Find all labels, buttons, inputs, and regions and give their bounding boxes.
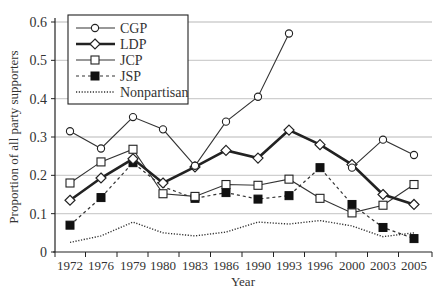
y-tick-label: 0.5 xyxy=(30,53,48,68)
square-marker xyxy=(254,181,262,189)
x-tick-label: 1996 xyxy=(307,258,334,273)
x-tick-label: 1986 xyxy=(213,258,240,273)
circle-marker xyxy=(222,118,229,125)
x-tick-label: 1983 xyxy=(182,258,208,273)
square-marker xyxy=(66,179,74,187)
filled-square-marker xyxy=(285,192,293,200)
y-tick-label: 0.1 xyxy=(30,207,48,222)
filled-square-marker xyxy=(66,221,74,229)
square-marker xyxy=(191,192,199,200)
filled-square-marker xyxy=(379,223,387,231)
square-marker xyxy=(379,201,387,209)
y-tick-label: 0 xyxy=(40,245,47,260)
filled-square-marker xyxy=(348,200,356,208)
filled-square-marker xyxy=(97,194,105,202)
x-tick-label: 1976 xyxy=(88,258,115,273)
x-axis-label: Year xyxy=(231,274,256,289)
square-marker xyxy=(285,175,293,183)
circle-marker xyxy=(97,145,104,152)
circle-marker xyxy=(379,136,386,143)
square-marker xyxy=(91,56,99,64)
y-tick-label: 0.4 xyxy=(30,92,48,107)
series-line xyxy=(70,130,414,204)
x-tick-label: 1979 xyxy=(120,258,146,273)
filled-square-marker xyxy=(222,189,230,197)
circle-marker xyxy=(129,113,136,120)
series-ldp xyxy=(65,125,419,209)
legend-label: JSP xyxy=(120,69,141,84)
x-tick-label: 1990 xyxy=(245,258,271,273)
filled-square-marker xyxy=(410,235,418,243)
circle-marker xyxy=(254,93,261,100)
circle-marker xyxy=(159,126,166,133)
diamond-marker xyxy=(409,199,419,209)
series-line xyxy=(70,221,414,243)
filled-square-marker xyxy=(91,72,99,80)
legend: CGPLDPJCPJSPNonpartisan xyxy=(68,15,188,104)
square-marker xyxy=(316,194,324,202)
square-marker xyxy=(129,145,137,153)
legend-label: JCP xyxy=(120,53,143,68)
x-tick-label: 2000 xyxy=(339,258,365,273)
circle-marker xyxy=(348,164,355,171)
diamond-marker xyxy=(221,145,231,155)
circle-marker xyxy=(91,24,98,31)
circle-marker xyxy=(285,30,292,37)
square-marker xyxy=(348,209,356,217)
square-marker xyxy=(410,181,418,189)
legend-label: Nonpartisan xyxy=(120,85,188,100)
x-tick-label: 1993 xyxy=(276,258,302,273)
y-tick-label: 0.3 xyxy=(30,130,48,145)
square-marker xyxy=(97,158,105,166)
x-tick-label: 2005 xyxy=(401,258,427,273)
x-tick-label: 2003 xyxy=(370,258,396,273)
series-line xyxy=(352,140,414,168)
line-chart: 00.10.20.30.40.50.6197219761979198019831… xyxy=(0,0,445,295)
filled-square-marker xyxy=(254,195,262,203)
legend-label: LDP xyxy=(120,37,147,52)
y-axis-label: Proportion of all party supporters xyxy=(6,50,21,223)
circle-marker xyxy=(191,162,198,169)
circle-marker xyxy=(410,151,417,158)
series-nonpartisan xyxy=(70,221,414,243)
circle-marker xyxy=(66,128,73,135)
x-tick-label: 1972 xyxy=(57,258,83,273)
legend-label: CGP xyxy=(120,21,147,36)
square-marker xyxy=(159,190,167,198)
filled-square-marker xyxy=(316,164,324,172)
series-jsp xyxy=(66,159,418,243)
y-tick-label: 0.2 xyxy=(30,168,48,183)
x-tick-label: 1980 xyxy=(150,258,176,273)
y-tick-label: 0.6 xyxy=(30,15,48,30)
square-marker xyxy=(222,181,230,189)
